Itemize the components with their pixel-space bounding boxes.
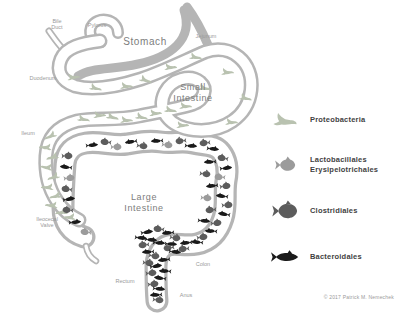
legend-item-label: Proteobacteria bbox=[310, 115, 365, 125]
legend-item-label: Lactobacillales Erysipelotrichales bbox=[310, 155, 378, 175]
proteobacteria-bird-icon bbox=[268, 105, 304, 135]
label-anus: Anus bbox=[180, 292, 193, 298]
bile-duct-tube bbox=[49, 31, 63, 49]
marker-clostridiales bbox=[138, 240, 149, 249]
label-bile-duct: BileDuct bbox=[51, 18, 63, 30]
lactobacillales-fish-icon bbox=[268, 150, 304, 180]
legend-item-proteobacteria: Proteobacteria bbox=[268, 105, 365, 135]
marker-bacteroidales bbox=[140, 228, 153, 235]
label-jejunum: Jejunum bbox=[196, 33, 217, 39]
marker-lactobacillales bbox=[200, 193, 211, 201]
label-stomach: Stomach bbox=[123, 36, 167, 47]
appendix-tube bbox=[86, 246, 96, 261]
legend-item-clostridiales: Clostridiales bbox=[268, 196, 358, 226]
label-ileum: Ileum bbox=[21, 130, 35, 136]
gi-tract-tubes bbox=[46, 7, 251, 301]
legend-item-lactobacillales: Lactobacillales Erysipelotrichales bbox=[268, 150, 378, 180]
legend-item-label: Bacteroidales bbox=[310, 252, 362, 262]
clostridiales-fish-icon bbox=[268, 196, 304, 226]
legend-item-bacteroidales: Bacteroidales bbox=[268, 242, 362, 272]
marker-clostridiales bbox=[199, 169, 211, 178]
label-colon: Colon bbox=[196, 261, 210, 267]
diagram-stage: BileDuctPylorusJejunumDuodenumIleumIleoc… bbox=[0, 0, 404, 321]
label-duodenum: Duodenum bbox=[30, 75, 57, 81]
copyright: © 2017 Patrick M. Nemechek bbox=[324, 294, 394, 300]
label-large-intestine: LargeIntestine bbox=[124, 192, 163, 213]
marker-bacteroidales bbox=[197, 217, 210, 223]
label-rectum: Rectum bbox=[116, 278, 135, 284]
bacteroidales-fish-icon bbox=[268, 242, 304, 272]
marker-proteobacteria bbox=[221, 67, 234, 75]
marker-clostridiales bbox=[153, 224, 165, 233]
label-pylorus: Pylorus bbox=[88, 22, 107, 28]
legend-item-label: Clostridiales bbox=[310, 206, 358, 216]
